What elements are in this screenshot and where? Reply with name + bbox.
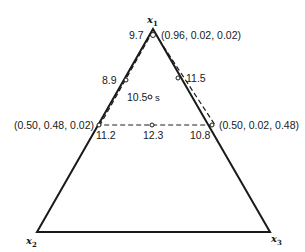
point-center <box>148 95 152 99</box>
point-left-upper <box>124 78 128 82</box>
vertex-label-x2: x2 <box>26 236 37 248</box>
point-right-upper <box>176 76 180 80</box>
coord-left-mid: (0.50, 0.48, 0.02) <box>14 120 94 131</box>
point-center-mid <box>150 123 154 127</box>
coord-top: (0.96, 0.02, 0.02) <box>161 30 241 41</box>
value-center-mid: 12.3 <box>143 130 163 141</box>
value-left-mid: 11.2 <box>96 130 116 141</box>
value-left-upper: 8.9 <box>102 75 117 86</box>
coord-right-mid: (0.50, 0.02, 0.48) <box>219 120 299 131</box>
center-marker-s: s <box>155 93 160 103</box>
vertex-label-x3: x3 <box>271 234 282 246</box>
value-center: 10.5 <box>127 92 147 103</box>
vertex-label-x1: x1 <box>147 15 158 27</box>
value-right-mid: 10.8 <box>190 130 210 141</box>
value-right-upper: 11.5 <box>186 73 206 84</box>
point-left-mid <box>97 123 101 127</box>
point-right-mid <box>210 123 214 127</box>
point-top <box>151 33 156 38</box>
value-top: 9.7 <box>129 30 144 41</box>
